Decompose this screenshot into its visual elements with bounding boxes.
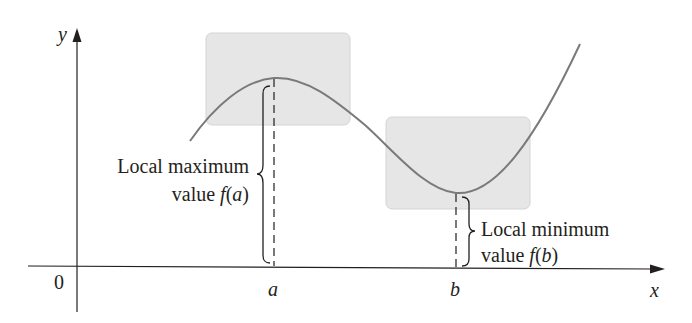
local-min-label-line2: value f(b) — [481, 244, 558, 267]
y-axis-arrow-icon — [73, 28, 82, 42]
x-axis — [28, 266, 655, 269]
x-axis-label: x — [649, 279, 659, 301]
local-min-label-line1: Local minimum — [481, 218, 610, 240]
tick-label-a: a — [268, 278, 278, 300]
x-axis-arrow-icon — [650, 265, 665, 274]
local-extrema-diagram: y x 0 a b Local maximum value f(a) Local… — [0, 0, 692, 323]
origin-label: 0 — [54, 271, 64, 293]
local-max-label-line2: value f(a) — [172, 183, 249, 206]
local-max-label-line1: Local maximum — [117, 155, 249, 177]
y-axis-label: y — [56, 23, 67, 46]
local-max-highlight-box — [206, 33, 350, 125]
tick-label-b: b — [450, 278, 460, 300]
